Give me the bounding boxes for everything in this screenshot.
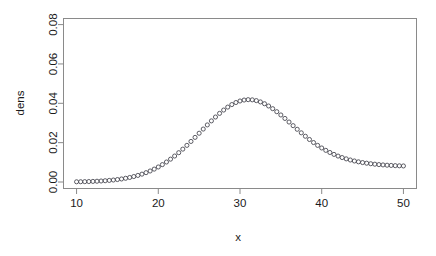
x-tick-label: 40 (315, 197, 328, 209)
x-tick-label: 30 (234, 197, 247, 209)
r-plot-figure: 1020304050 0.000.020.040.060.08 x dens (0, 0, 436, 256)
x-axis-title: x (235, 231, 241, 243)
x-tick-label: 10 (70, 197, 83, 209)
x-tick-label: 50 (397, 197, 410, 209)
y-tick-label: 0.02 (48, 131, 60, 153)
plot-background (0, 0, 436, 256)
y-tick-label: 0.00 (48, 171, 60, 193)
y-axis-title: dens (14, 90, 26, 115)
y-tick-label: 0.04 (48, 92, 60, 115)
x-tick-label: 20 (152, 197, 165, 209)
y-tick-label: 0.06 (48, 53, 60, 75)
scatter-plot-canvas: 1020304050 0.000.020.040.060.08 x dens (0, 0, 436, 256)
y-tick-label: 0.08 (48, 13, 60, 35)
